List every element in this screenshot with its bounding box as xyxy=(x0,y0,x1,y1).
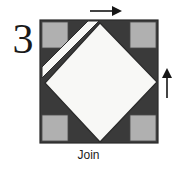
corner-square-top-left xyxy=(42,22,68,48)
diagram-stage: 3 Join xyxy=(0,0,177,169)
arrow-up-icon xyxy=(162,68,172,98)
step-caption: Join xyxy=(0,148,177,162)
arrow-right-icon xyxy=(90,6,122,16)
corner-square-bottom-left xyxy=(42,115,68,141)
corner-square-top-right xyxy=(130,22,156,48)
quilt-block-diagram xyxy=(0,0,177,169)
corner-square-bottom-right xyxy=(130,115,156,141)
